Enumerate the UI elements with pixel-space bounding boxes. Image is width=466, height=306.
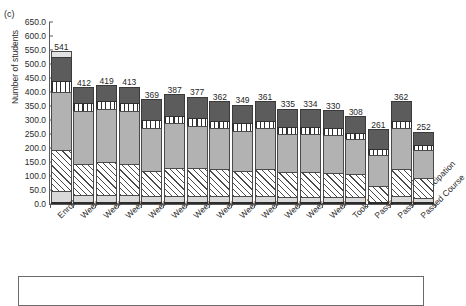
bar-value-label: 369 <box>145 90 159 100</box>
bar-segment-dark-gray <box>96 85 117 101</box>
y-axis-tick-label: 650.0 <box>25 17 46 27</box>
bar-segment-medium-gray <box>368 155 389 186</box>
bar-segment-dark-gray <box>391 101 412 121</box>
bar-segment-dark-gray <box>232 105 253 124</box>
bar-segment-dark-gray <box>413 132 434 145</box>
bar-segment-medium-gray <box>141 128 162 171</box>
y-axis-tick-label: 550.0 <box>25 45 46 55</box>
bar-segment-medium-gray <box>187 126 208 169</box>
y-axis-tick-label: 350.0 <box>25 101 46 111</box>
bar-passed-participation[interactable] <box>391 101 412 204</box>
bar-segment-white-diagonal-hatch <box>345 174 366 197</box>
bar-value-label: 361 <box>258 92 272 102</box>
y-axis-tick-label: 100.0 <box>25 171 46 181</box>
bar-segment-white-diagonal-hatch <box>300 172 321 197</box>
bar-segment-white-vertical-stripe <box>368 149 389 155</box>
bar-week-12[interactable] <box>323 110 344 204</box>
bar-segment-medium-gray <box>277 134 298 172</box>
y-axis-tick-mark <box>49 22 53 23</box>
bar-week-6[interactable] <box>187 97 208 204</box>
x-axis-tick-mark <box>141 204 142 208</box>
y-axis-tick-label: 450.0 <box>25 73 46 83</box>
bar-passed-course[interactable] <box>413 132 434 204</box>
bar-value-label: 330 <box>326 101 340 111</box>
bar-segment-dark-gray <box>209 101 230 121</box>
bar-segment-white-vertical-stripe <box>255 121 276 128</box>
x-axis-tick-mark <box>163 204 164 208</box>
bar-value-label: 413 <box>122 77 136 87</box>
bar-segment-medium-gray <box>413 150 434 177</box>
x-axis-tick-mark <box>231 204 232 208</box>
bar-segment-dark-gray <box>119 87 140 103</box>
x-axis-tick-mark <box>322 204 323 208</box>
x-axis-tick-mark <box>73 204 74 208</box>
bar-week-7[interactable] <box>209 101 230 204</box>
y-axis-tick-label: 200.0 <box>25 143 46 153</box>
bar-segment-white-vertical-stripe <box>413 145 434 151</box>
bar-segment-dark-gray <box>368 129 389 149</box>
bar-segment-white-diagonal-hatch <box>164 168 185 196</box>
y-axis-tick-label: 250.0 <box>25 129 46 139</box>
bar-value-label: 308 <box>349 107 363 117</box>
bar-segment-dark-gray <box>187 97 208 118</box>
bar-value-label: 349 <box>235 95 249 105</box>
bar-week-3[interactable] <box>119 87 140 204</box>
bar-week-4[interactable] <box>141 99 162 204</box>
bar-week-1[interactable] <box>73 87 94 204</box>
y-axis-tick-label: 500.0 <box>25 59 46 69</box>
x-axis-tick-mark <box>276 204 277 208</box>
bar-segment-medium-gray <box>323 135 344 173</box>
x-axis-line <box>49 204 436 205</box>
bar-segment-white-diagonal-hatch <box>232 171 253 197</box>
bar-segment-dark-gray <box>255 101 276 120</box>
bar-segment-medium-gray <box>209 128 230 169</box>
y-axis-tick-label: 400.0 <box>25 87 46 97</box>
bar-value-label: 261 <box>371 120 385 130</box>
bar-segment-white-vertical-stripe <box>345 133 366 139</box>
bar-segment-white-vertical-stripe <box>96 101 117 109</box>
bar-week-10[interactable] <box>277 109 298 204</box>
x-axis-tick-mark <box>186 204 187 208</box>
bar-segment-white-vertical-stripe <box>232 123 253 130</box>
bar-segment-medium-gray <box>300 134 321 172</box>
bar-segment-white-diagonal-hatch <box>255 169 276 196</box>
bar-passed-exam[interactable] <box>368 129 389 204</box>
bar-segment-white-diagonal-hatch <box>141 171 162 197</box>
bar-segment-white-diagonal-hatch <box>391 169 412 196</box>
bar-value-label: 252 <box>417 122 431 132</box>
bar-segment-white-diagonal-hatch <box>323 173 344 197</box>
bar-segment-white-vertical-stripe <box>164 116 185 124</box>
bar-segment-white-vertical-stripe <box>277 127 298 134</box>
bar-week-8[interactable] <box>232 105 253 204</box>
bar-segment-dark-gray <box>277 109 298 128</box>
bar-segment-medium-gray <box>232 131 253 171</box>
x-axis-tick-mark <box>50 204 51 208</box>
x-axis-tick-mark <box>254 204 255 208</box>
legend-box <box>18 276 424 306</box>
bar-segment-white-vertical-stripe <box>73 103 94 110</box>
x-axis-tick-mark <box>344 204 345 208</box>
bar-segment-white-vertical-stripe <box>209 121 230 128</box>
x-axis-tick-mark <box>390 204 391 208</box>
x-axis-tick-mark <box>118 204 119 208</box>
bar-segment-medium-gray <box>391 128 412 169</box>
bar-segment-white-vertical-stripe <box>300 127 321 134</box>
bar-segment-white-diagonal-hatch <box>209 169 230 196</box>
bar-week-9[interactable] <box>255 101 276 204</box>
x-axis-tick-mark <box>435 204 436 208</box>
bar-week-2[interactable] <box>96 85 117 204</box>
bar-segment-white-diagonal-hatch <box>413 178 434 198</box>
bar-segment-medium-gray <box>119 111 140 164</box>
y-axis-tick-label: 300.0 <box>25 115 46 125</box>
bar-segment-white-vertical-stripe <box>187 118 208 126</box>
bar-week-11[interactable] <box>300 109 321 204</box>
bar-enrolled[interactable] <box>51 51 72 204</box>
bar-took-exam[interactable] <box>345 116 366 204</box>
bar-segment-medium-gray <box>73 111 94 165</box>
bar-segment-medium-gray <box>345 139 366 174</box>
y-axis-tick-label: 0.0 <box>34 199 46 209</box>
y-axis-tick-mark <box>49 36 53 37</box>
bar-week-5[interactable] <box>164 94 185 204</box>
y-axis-tick-labels: 0.050.0100.0150.0200.0250.0300.0350.0400… <box>0 0 46 293</box>
